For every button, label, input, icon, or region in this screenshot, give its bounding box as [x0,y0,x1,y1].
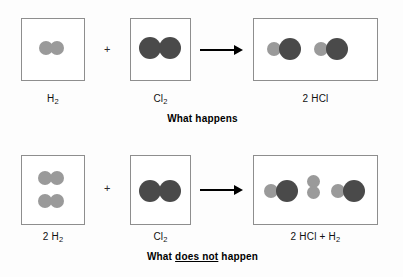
atom-hydrogen [50,171,64,185]
atom-hydrogen [50,194,64,208]
atom-chlorine [276,180,298,202]
particle-box-chlorine [130,155,191,225]
atom-chlorine [139,180,161,202]
label-two-hydrogen: 2 H2 [21,231,85,242]
particle-box-hydrogen-chloride-and-hydrogen [253,155,378,225]
atom-hydrogen [307,186,320,199]
atom-chlorine [279,38,301,60]
particle-box-two-hydrogen [21,155,85,225]
reaction-row-what-does-not-happen: 2 H2 + Cl2 [0,139,403,277]
label-chlorine: Cl2 [130,93,191,104]
atom-chlorine [159,37,181,59]
caption-what-happens: What happens [120,113,285,124]
atom-chlorine [326,38,348,60]
reaction-diagram: H2 + Cl2 [0,0,403,277]
atom-chlorine [159,180,181,202]
caption-emphasis: does not [175,251,218,262]
particle-box-hydrogen [21,18,85,81]
label-hydrogen: H2 [21,93,85,104]
atom-hydrogen [50,41,64,55]
reaction-arrow-icon [200,184,245,196]
atom-chlorine [139,37,161,59]
label-chlorine: Cl2 [130,231,191,242]
reaction-arrow-icon [200,44,245,56]
reaction-row-what-happens: H2 + Cl2 [0,0,403,139]
caption-prefix: What [147,251,175,262]
particle-box-chlorine [130,18,191,81]
plus-operator: + [104,183,110,194]
caption-what-does-not-happen: What does not happen [110,251,295,262]
atom-chlorine [343,180,365,202]
label-hydrogen-chloride-and-hydrogen: 2 HCl + H2 [253,231,378,242]
particle-box-hydrogen-chloride [253,18,378,81]
plus-operator: + [104,44,110,55]
caption-suffix: happen [218,251,258,262]
label-hydrogen-chloride: 2 HCl [253,93,378,104]
